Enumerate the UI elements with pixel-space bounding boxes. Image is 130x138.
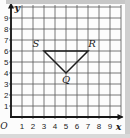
x-tick-label: 7 [86,122,91,131]
y-tick-label: 5 [4,58,9,67]
x-axis-label: x [115,121,122,132]
y-tick-label: 2 [4,91,9,100]
x-tick-label: 5 [64,122,69,131]
scan-border-right [125,0,130,138]
scan-border-top [6,0,130,4]
x-tick-label: 8 [97,122,102,131]
y-tick-labels: 123456789 [4,14,9,111]
x-tick-label: 3 [42,122,47,131]
scan-border-bottom [0,134,130,138]
vertex-label-R: R [87,38,96,49]
graph-figure: 123456789123456789OyxSRQ [0,0,130,138]
x-tick-labels: 123456789 [20,122,113,131]
x-tick-label: 6 [75,122,80,131]
y-tick-label: 9 [4,14,9,23]
y-tick-label: 1 [4,102,9,111]
vertex-label-Q: Q [62,74,70,85]
y-tick-label: 4 [4,69,9,78]
x-tick-label: 4 [53,122,58,131]
y-tick-label: 3 [4,80,9,89]
vertex-label-S: S [33,38,40,49]
x-tick-label: 1 [20,122,25,131]
y-tick-label: 8 [4,25,9,34]
y-tick-label: 7 [4,36,9,45]
x-tick-label: 9 [108,122,113,131]
y-tick-label: 6 [4,47,9,56]
coordinate-grid: 123456789123456789OyxSRQ [0,0,130,138]
origin-label: O [0,121,8,131]
x-tick-label: 2 [31,122,36,131]
